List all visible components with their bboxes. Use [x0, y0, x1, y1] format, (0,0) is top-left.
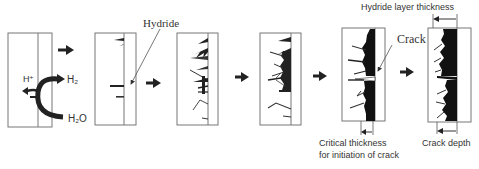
h2-label: H₂ [67, 75, 78, 85]
h2o-label: H₂O [68, 114, 87, 124]
stage-4-panel [260, 33, 301, 125]
critical-thickness-label-line1: Critical thickness [319, 139, 387, 148]
hydride-layer-thickness-label: Hydride layer thickness [361, 3, 454, 12]
arrow-5-icon [400, 67, 414, 77]
arrow-4-icon [313, 71, 327, 81]
stage-3-panel [177, 33, 218, 125]
arrow-3-icon [235, 72, 249, 82]
h-plus-label: H⁺ [23, 75, 35, 84]
arrow-1-icon [58, 45, 74, 55]
stage-1-panel [8, 33, 65, 127]
hydride-leader-line [131, 29, 160, 84]
stage-5-panel [342, 28, 385, 135]
crack-depth-label: Crack depth [422, 139, 471, 148]
critical-thickness-label-line2: for initiation of crack [319, 151, 399, 160]
stage-6-panel [428, 14, 471, 134]
crack-label: Crack [397, 33, 426, 45]
hydride-label: Hydride [143, 18, 179, 29]
arrow-2-icon [146, 78, 161, 88]
stage-2-panel [95, 33, 136, 125]
